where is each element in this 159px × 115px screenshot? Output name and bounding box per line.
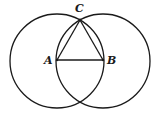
point-B [102, 59, 104, 61]
equilateral-triangle-construction: A B C [0, 0, 159, 115]
point-A [56, 59, 58, 61]
label-C: C [75, 2, 84, 15]
label-A: A [43, 54, 53, 67]
label-B: B [106, 54, 116, 67]
point-C [79, 19, 82, 22]
